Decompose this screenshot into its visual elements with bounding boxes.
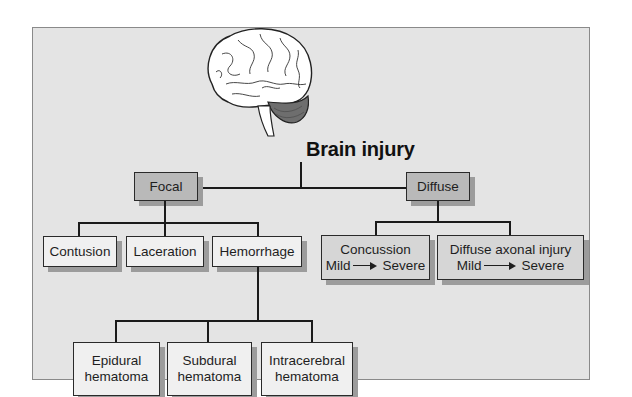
connector-hemorrhage-drop <box>257 222 259 236</box>
node-intracerebral-hematoma: Intracerebral hematoma <box>261 342 353 396</box>
node-hemorrhage: Hemorrhage <box>212 236 302 267</box>
node-concussion-label: Concussion <box>340 242 411 258</box>
node-intracerebral-line1: Intracerebral <box>269 353 345 369</box>
node-epidural-line2: hematoma <box>85 369 149 385</box>
connector-epidural-drop <box>115 320 117 343</box>
category-diffuse: Diffuse <box>406 172 470 201</box>
scale-from-label: Mild <box>457 258 482 274</box>
connector-contusion-drop <box>78 222 80 236</box>
connector-dai-drop <box>509 221 511 235</box>
node-dai-label: Diffuse axonal injury <box>450 242 571 258</box>
node-laceration: Laceration <box>126 236 204 267</box>
connector-intracerebral-drop <box>311 320 313 343</box>
scale-from-label: Mild <box>326 258 351 274</box>
connector-hemorrhage-stem <box>257 267 259 322</box>
scale-to-label: Severe <box>521 258 564 274</box>
connector-diffuse-stem <box>437 201 439 223</box>
node-contusion-label: Contusion <box>50 244 111 260</box>
connector-subdural-drop <box>207 320 209 343</box>
node-diffuse-axonal-injury: Diffuse axonal injury Mild Severe <box>437 235 584 280</box>
scale-to-label: Severe <box>382 258 425 274</box>
brain-icon <box>202 24 322 139</box>
category-focal: Focal <box>134 172 198 201</box>
node-intracerebral-line2: hematoma <box>275 369 339 385</box>
connector-root-bar <box>164 187 438 189</box>
diagram-title: Brain injury <box>306 138 415 161</box>
category-diffuse-label: Diffuse <box>417 179 459 195</box>
severity-scale: Mild Severe <box>457 258 565 274</box>
node-hemorrhage-label: Hemorrhage <box>219 244 294 260</box>
connector-diffuse-bar <box>375 221 510 223</box>
node-subdural-line2: hematoma <box>178 369 242 385</box>
connector-concussion-drop <box>375 221 377 235</box>
arrow-right-icon <box>353 265 375 266</box>
connector-root-stem <box>300 162 302 188</box>
connector-focal-bar <box>78 222 258 224</box>
node-contusion: Contusion <box>43 236 117 267</box>
node-subdural-hematoma: Subdural hematoma <box>167 342 252 396</box>
node-epidural-line1: Epidural <box>92 353 142 369</box>
node-subdural-line1: Subdural <box>182 353 236 369</box>
connector-hemorrhage-bar <box>115 320 313 322</box>
connector-laceration-drop <box>164 222 166 236</box>
category-focal-label: Focal <box>149 179 182 195</box>
severity-scale: Mild Severe <box>326 258 426 274</box>
connector-focal-stem <box>164 201 166 224</box>
node-epidural-hematoma: Epidural hematoma <box>73 342 160 396</box>
node-concussion: Concussion Mild Severe <box>321 235 430 280</box>
node-laceration-label: Laceration <box>133 244 196 260</box>
arrow-right-icon <box>484 265 514 266</box>
